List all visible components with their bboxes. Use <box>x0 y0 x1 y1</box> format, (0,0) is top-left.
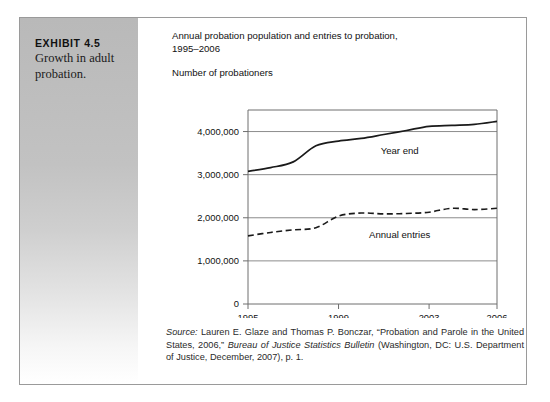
y-tick-label: 3,000,000 <box>197 169 239 180</box>
figure-frame: EXHIBIT 4.5 Growth in adult probation. A… <box>19 17 527 385</box>
chart-block: Annual probation population and entries … <box>172 18 524 384</box>
data-series-group <box>248 121 497 236</box>
exhibit-number: EXHIBIT 4.5 <box>35 36 131 50</box>
exhibit-caption: Growth in adult probation. <box>35 51 131 82</box>
y-axis-tick-labels: 01,000,0002,000,0003,000,0004,000,000 <box>197 126 239 309</box>
series-annotations: Year endAnnual entries <box>369 145 431 240</box>
plot-frame <box>248 110 497 304</box>
axis-ticks-group <box>243 132 497 309</box>
exhibit-gray-panel: EXHIBIT 4.5 Growth in adult probation. <box>20 18 138 384</box>
chart-title-line-2: 1995–2006 <box>172 43 220 54</box>
gridlines-group <box>248 132 497 261</box>
x-axis-tick-labels: 1995199920032006 <box>238 312 508 318</box>
source-prefix: Source: <box>166 327 198 337</box>
x-tick-label: 1995 <box>238 312 259 318</box>
source-publication-title: Bureau of Justice Statistics Bulletin <box>228 340 375 350</box>
line-chart-svg: 01,000,0002,000,0003,000,0004,000,000 19… <box>172 86 512 318</box>
chart-title: Annual probation population and entries … <box>172 30 472 55</box>
y-tick-label: 2,000,000 <box>197 212 239 223</box>
exhibit-label-block: EXHIBIT 4.5 Growth in adult probation. <box>35 36 131 82</box>
chart-title-line-1: Annual probation population and entries … <box>172 30 398 41</box>
series-line-year-end <box>248 121 497 171</box>
chart-plot-area: 01,000,0002,000,0003,000,0004,000,000 19… <box>172 86 512 318</box>
x-tick-label: 1999 <box>328 312 349 318</box>
x-tick-label: 2006 <box>487 312 508 318</box>
source-note: Source: Lauren E. Glaze and Thomas P. Bo… <box>166 326 524 364</box>
y-tick-label: 0 <box>234 298 239 309</box>
y-tick-label: 1,000,000 <box>197 255 239 266</box>
x-tick-label: 2003 <box>419 312 440 318</box>
series-annotation-annual-entries: Annual entries <box>369 229 431 240</box>
y-axis-caption: Number of probationers <box>172 67 273 78</box>
y-tick-label: 4,000,000 <box>197 126 239 137</box>
series-annotation-year-end: Year end <box>381 145 419 156</box>
figure-page: EXHIBIT 4.5 Growth in adult probation. A… <box>0 0 550 402</box>
